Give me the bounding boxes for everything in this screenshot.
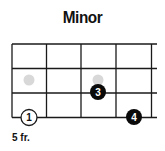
fret-position-label: 5 fr. [12,132,30,143]
ghost-dot [24,75,35,86]
finger-number: 4 [131,112,137,123]
finger-number: 3 [95,87,101,98]
finger-dot: 4 [126,109,142,125]
ghost-dots [24,75,104,86]
finger-number: 1 [26,112,32,123]
finger-dot: 1 [21,110,37,126]
ghost-dot [93,75,104,86]
finger-dot: 3 [90,84,106,100]
chord-diagram: 134 [0,0,165,151]
